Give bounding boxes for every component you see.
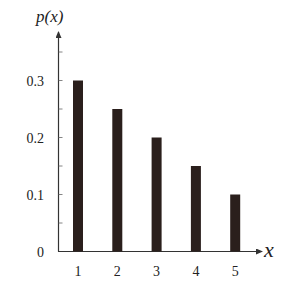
x-axis-label: x xyxy=(263,237,274,262)
bar xyxy=(230,195,240,252)
x-tick-label: 2 xyxy=(114,264,121,279)
x-tick-label: 1 xyxy=(75,264,82,279)
bar-chart: 00.10.20.3 12345 p(x) x xyxy=(0,0,301,302)
x-tick-label: 3 xyxy=(153,264,160,279)
y-axis-label: p(x) xyxy=(35,7,64,26)
y-tick-label: 0.1 xyxy=(27,188,45,203)
bar xyxy=(73,81,83,252)
y-tick-label: 0.2 xyxy=(27,131,45,146)
bar xyxy=(112,109,122,252)
x-tick-label: 5 xyxy=(232,264,239,279)
bars xyxy=(73,81,240,252)
x-tick-labels: 12345 xyxy=(75,264,239,279)
y-ticks: 00.10.20.3 xyxy=(27,52,63,260)
bar xyxy=(191,166,201,252)
y-tick-label: 0 xyxy=(37,245,44,260)
y-tick-label: 0.3 xyxy=(27,74,45,89)
bar xyxy=(152,138,162,252)
x-tick-label: 4 xyxy=(192,264,199,279)
